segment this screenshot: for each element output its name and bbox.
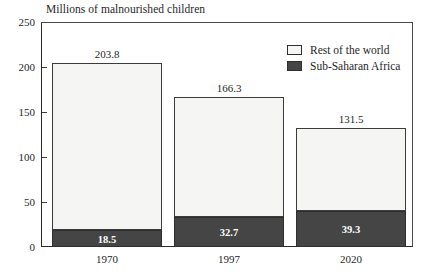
x-tick-label-1970: 1970 <box>96 253 118 265</box>
legend-swatch-dark-icon <box>287 61 302 71</box>
bar-value-label-sub-saharan-africa-1997: 32.7 <box>175 227 283 238</box>
bar-group-2020[interactable]: 39.3 131.5 <box>296 128 406 247</box>
legend-label-rest-of-the-world: Rest of the world <box>310 44 390 56</box>
y-tick-label-0: 0 <box>30 241 36 253</box>
bar-segment-sub-saharan-africa-1970[interactable]: 18.5 <box>52 230 162 247</box>
bar-segment-sub-saharan-africa-1997[interactable]: 32.7 <box>174 217 284 247</box>
bar-segment-rest-of-world-2020[interactable] <box>296 128 406 211</box>
y-tick-marks <box>42 0 48 274</box>
y-tick-label-250: 250 <box>19 16 36 28</box>
x-tick-label-1997: 1997 <box>218 253 240 265</box>
legend-label-sub-saharan-africa: Sub-Saharan Africa <box>310 60 400 72</box>
chart-figure: Millions of malnourished children 250 20… <box>0 0 427 274</box>
legend-item-sub-saharan-africa[interactable]: Sub-Saharan Africa <box>287 58 400 74</box>
chart-title: Millions of malnourished children <box>46 3 205 15</box>
chart-legend: Rest of the world Sub-Saharan Africa <box>287 42 400 74</box>
y-tick-mark-50 <box>42 202 47 203</box>
legend-swatch-light-icon <box>287 45 302 55</box>
y-tick-label-200: 200 <box>19 61 36 73</box>
bar-group-1970[interactable]: 18.5 203.8 <box>52 63 162 247</box>
bar-group-1997[interactable]: 32.7 166.3 <box>174 97 284 247</box>
y-tick-mark-150 <box>42 112 47 113</box>
bar-value-label-sub-saharan-africa-2020: 39.3 <box>297 224 405 235</box>
x-tick-label-2020: 2020 <box>340 253 362 265</box>
y-tick-label-100: 100 <box>19 151 36 163</box>
bar-segment-rest-of-world-1997[interactable] <box>174 97 284 217</box>
y-tick-label-50: 50 <box>24 196 35 208</box>
y-tick-mark-200 <box>42 67 47 68</box>
bar-value-label-sub-saharan-africa-1970: 18.5 <box>53 234 161 245</box>
y-tick-mark-100 <box>42 157 47 158</box>
y-axis: 250 200 150 100 50 0 <box>0 0 38 274</box>
bar-total-label-2020: 131.5 <box>296 113 406 125</box>
bar-total-label-1997: 166.3 <box>174 82 284 94</box>
bar-segment-sub-saharan-africa-2020[interactable]: 39.3 <box>296 211 406 247</box>
legend-item-rest-of-the-world[interactable]: Rest of the world <box>287 42 400 58</box>
bar-segment-rest-of-world-1970[interactable] <box>52 63 162 230</box>
bar-total-label-1970: 203.8 <box>52 48 162 60</box>
y-tick-label-150: 150 <box>19 106 36 118</box>
